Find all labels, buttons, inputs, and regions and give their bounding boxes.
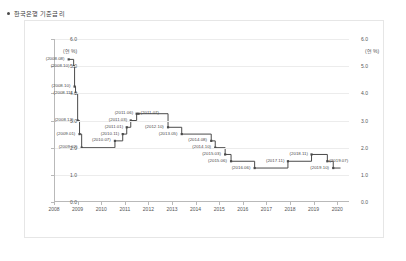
y-tick-label-right: 4.0 — [361, 90, 383, 96]
data-point-label: (2010.07) — [92, 138, 111, 142]
data-point-label: (2011.07) — [141, 111, 159, 115]
data-point-label: (2019.07) — [329, 159, 348, 163]
data-point-label: (2012.10) — [145, 125, 164, 129]
data-point-marker — [137, 113, 139, 115]
y-tick-label-right: 5.0 — [361, 63, 383, 69]
data-point-label: (2015.06) — [208, 159, 227, 163]
data-point-label: (2017.11) — [266, 159, 284, 163]
data-point-marker — [210, 140, 212, 142]
data-point-marker — [254, 167, 256, 169]
data-point-marker — [73, 85, 75, 87]
data-point-label: (2014.10) — [192, 145, 211, 149]
data-point-marker — [332, 167, 334, 169]
y-tick-label-left: 6.0 — [55, 36, 77, 42]
gridline — [55, 66, 349, 67]
y-tick-label-left: 0.0 — [55, 199, 77, 205]
screenshot-root: 한국은행 기준금리 (연 %) (연 %) 0.00.01.01.02.02.0… — [0, 0, 406, 261]
y-tick-mark — [51, 39, 54, 40]
x-tick-label: 2020 — [322, 206, 352, 212]
gridline — [55, 93, 349, 94]
x-tick-mark — [337, 202, 338, 205]
data-point-label: (2008.11) — [54, 91, 72, 95]
x-tick-mark — [54, 202, 55, 205]
data-point-label: (2008.10) — [51, 64, 70, 68]
x-tick-mark — [148, 202, 149, 205]
data-point-label: (2016.06) — [232, 166, 251, 170]
data-point-marker — [167, 126, 169, 128]
x-tick-mark — [101, 202, 102, 205]
y-tick-label-right: 6.0 — [361, 36, 383, 42]
data-point-label: (2015.03) — [202, 152, 221, 156]
data-point-marker — [78, 133, 80, 135]
data-point-marker — [287, 160, 289, 162]
data-point-label: (2013.05) — [159, 132, 178, 136]
gridline — [55, 175, 349, 176]
data-point-marker — [224, 153, 226, 155]
x-tick-mark — [243, 202, 244, 205]
plot-area — [54, 39, 349, 202]
data-point-label: (2008.08) — [46, 57, 65, 61]
data-point-marker — [230, 160, 232, 162]
x-tick-mark — [125, 202, 126, 205]
x-tick-mark — [219, 202, 220, 205]
x-tick-mark — [314, 202, 315, 205]
x-tick-mark — [196, 202, 197, 205]
data-point-label: (2018.11) — [290, 152, 308, 156]
y-tick-label-right: 0.0 — [361, 199, 383, 205]
data-point-label: (2009.02) — [59, 145, 78, 149]
chart-heading: 한국은행 기준금리 — [7, 9, 65, 18]
x-tick-mark — [78, 202, 79, 205]
y-tick-mark — [51, 175, 54, 176]
chart-panel: (연 %) (연 %) 0.00.01.01.02.02.03.03.04.04… — [24, 20, 384, 238]
data-point-marker — [122, 133, 124, 135]
y-tick-mark — [51, 121, 54, 122]
data-point-label: (2011.06) — [115, 111, 133, 115]
data-point-label: (2011.03) — [109, 118, 127, 122]
data-point-label: (2019.10) — [310, 166, 329, 170]
data-point-marker — [136, 113, 138, 115]
y-tick-label-left: 1.0 — [55, 172, 77, 178]
page-title: 한국은행 기준금리 — [14, 9, 65, 18]
data-point-marker — [114, 140, 116, 142]
data-point-marker — [181, 133, 183, 135]
x-tick-mark — [266, 202, 267, 205]
data-point-marker — [126, 126, 128, 128]
data-point-label: (2008.10) — [52, 84, 71, 88]
data-point-label: (2010.11) — [101, 132, 119, 136]
data-point-marker — [326, 160, 328, 162]
data-point-marker — [310, 153, 312, 155]
data-point-label: (2011.01) — [105, 125, 123, 129]
x-tick-mark — [172, 202, 173, 205]
data-point-label: (2008.12) — [55, 118, 74, 122]
data-point-label: (2009.01) — [57, 132, 76, 136]
data-point-marker — [68, 58, 70, 60]
gridline — [55, 121, 349, 122]
y-tick-label-right: 3.0 — [361, 118, 383, 124]
y-tick-label-right: 1.0 — [361, 172, 383, 178]
bullet-icon — [7, 12, 10, 15]
gridline — [55, 39, 349, 40]
data-point-label: (2014.08) — [188, 138, 207, 142]
x-tick-mark — [290, 202, 291, 205]
y-tick-label-right: 2.0 — [361, 145, 383, 151]
y-axis-unit-right: (연 %) — [365, 47, 379, 54]
y-tick-mark — [51, 148, 54, 149]
